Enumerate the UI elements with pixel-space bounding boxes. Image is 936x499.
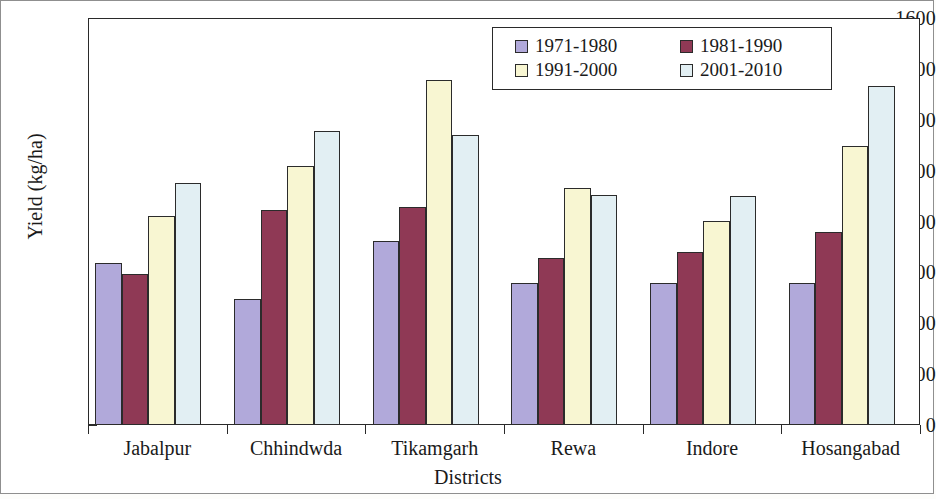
bar (175, 183, 202, 425)
bar (399, 207, 426, 425)
bar (538, 258, 565, 425)
bar (148, 216, 175, 425)
x-tick-label: Chhindwda (227, 437, 366, 459)
legend-swatch-icon (680, 40, 693, 53)
bar (95, 263, 122, 425)
legend-swatch-icon (680, 64, 693, 77)
x-axis-title: Districts (0, 466, 936, 489)
bar (511, 283, 538, 425)
chart-legend: 1971-19801981-19901991-20002001-2010 (492, 27, 832, 90)
legend-item: 1971-1980 (497, 34, 662, 58)
legend-label: 1991-2000 (535, 60, 617, 80)
bar (650, 283, 677, 425)
bar (703, 221, 730, 425)
bar (287, 166, 314, 425)
bar (426, 80, 453, 425)
x-tick-label: Hosangabad (781, 437, 920, 459)
bar (591, 195, 618, 425)
x-tick-label: Tikamgarh (365, 437, 504, 459)
bar (815, 232, 842, 425)
bar (730, 196, 757, 425)
x-tick-mark (504, 425, 505, 434)
x-tick-mark (781, 425, 782, 434)
legend-item: 1981-1990 (662, 34, 827, 58)
x-tick-label: Indore (643, 437, 782, 459)
bar (789, 283, 816, 425)
bar (677, 252, 704, 425)
bar (868, 86, 895, 425)
x-tick-mark (227, 425, 228, 434)
legend-label: 1971-1980 (535, 36, 617, 56)
bar (452, 135, 479, 425)
legend-label: 2001-2010 (700, 60, 782, 80)
x-tick-label: Jabalpur (88, 437, 227, 459)
bar (234, 299, 261, 425)
x-tick-mark (365, 425, 366, 434)
bar (373, 241, 400, 425)
x-tick-mark (643, 425, 644, 434)
legend-item: 2001-2010 (662, 58, 827, 82)
legend-swatch-icon (515, 40, 528, 53)
legend-item: 1991-2000 (497, 58, 662, 82)
y-tick-mark (88, 425, 97, 426)
bar (122, 274, 149, 425)
bar (564, 188, 591, 425)
x-tick-mark (920, 425, 921, 434)
legend-label: 1981-1990 (700, 36, 782, 56)
y-axis-title: Yield (kg/ha) (24, 67, 47, 307)
x-tick-mark (88, 425, 89, 434)
bar (314, 131, 341, 425)
chart-figure: 16001400120010008006004002000 Yield (kg/… (0, 0, 936, 499)
x-tick-label: Rewa (504, 437, 643, 459)
bar (842, 146, 869, 425)
legend-swatch-icon (515, 64, 528, 77)
bar (261, 210, 288, 425)
